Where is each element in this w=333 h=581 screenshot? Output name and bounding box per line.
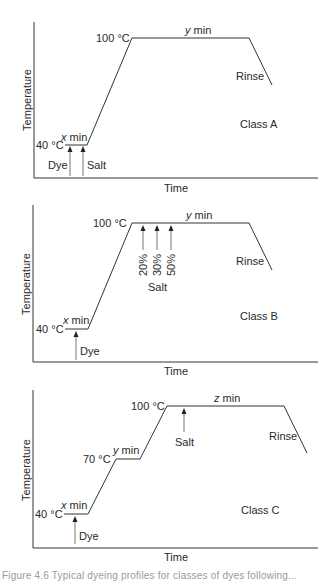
dye-label: Dye (48, 159, 68, 171)
hold-high-label: y min (185, 209, 212, 221)
salt-label: Salt (148, 281, 167, 293)
panel-class-c: Temperature Time 40 °C 70 °C 100 °C x mi… (20, 390, 318, 563)
temp-low-label: 40 °C (36, 323, 64, 335)
hold-low-label: x min (60, 131, 87, 143)
panel-class-a: Temperature Time 40 °C 100 °C x min y mi… (21, 22, 318, 194)
dye-label: Dye (80, 345, 100, 357)
y-axis-label: Temperature (21, 69, 33, 131)
rinse-label: Rinse (269, 430, 297, 442)
salt-label: Salt (175, 436, 194, 448)
rinse-label: Rinse (236, 70, 264, 82)
salt-20-label: 20% (137, 254, 149, 276)
x-axis-label: Time (164, 551, 188, 563)
temp-mid-label: 70 °C (83, 453, 111, 465)
y-axis-label: Temperature (20, 253, 32, 315)
y-axis-label: Temperature (20, 439, 32, 501)
temp-high-label: 100 °C (131, 400, 165, 412)
hold-low-label: x min (60, 499, 87, 511)
salt-30-label: 30% (151, 254, 163, 276)
temp-high-label: 100 °C (93, 217, 127, 229)
class-label: Class C (241, 504, 280, 516)
dye-label: Dye (79, 530, 99, 542)
salt-label: Salt (87, 159, 106, 171)
class-label: Class A (240, 118, 278, 130)
salt-50-label: 50% (165, 254, 177, 276)
temp-low-label: 40 °C (36, 139, 64, 151)
temp-high-label: 100 °C (96, 32, 130, 44)
hold-mid-label: y min (112, 444, 139, 456)
x-axis-label: Time (164, 182, 188, 194)
hold-low-label: x min (62, 314, 89, 326)
hold-high-label: z min (213, 392, 240, 404)
figure-caption: Figure 4.6 Typical dyeing profiles for c… (2, 570, 333, 581)
class-label: Class B (240, 310, 278, 322)
rinse-label: Rinse (236, 255, 264, 267)
x-axis-label: Time (164, 365, 188, 377)
temp-low-label: 40 °C (35, 508, 63, 520)
hold-high-label: y min (184, 24, 211, 36)
panel-class-b: Temperature Time 40 °C 100 °C x min y mi… (20, 205, 318, 377)
